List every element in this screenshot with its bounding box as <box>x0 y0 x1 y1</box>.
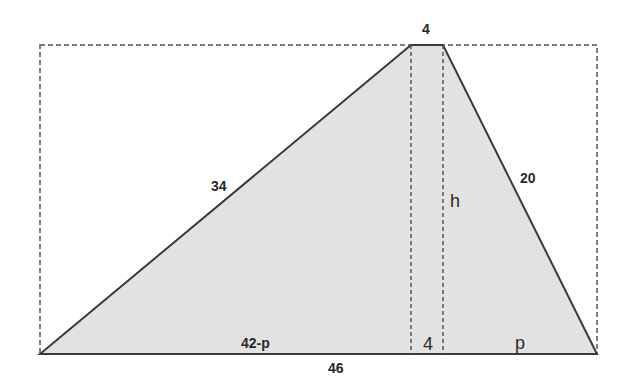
diagram-canvas <box>0 0 627 392</box>
trapezoid-shape <box>40 45 597 354</box>
right-side-label: 20 <box>520 170 536 186</box>
height-label: h <box>450 191 460 212</box>
top-base-label: 4 <box>422 21 430 37</box>
bottom-base-label: 46 <box>328 360 344 376</box>
bottom-middle-segment-label: 4 <box>423 334 433 355</box>
trapezoid-diagram: 4 34 20 h 42-p 4 p 46 <box>0 0 627 392</box>
bottom-right-segment-label: p <box>515 333 525 354</box>
left-side-label: 34 <box>211 178 227 194</box>
bottom-left-segment-label: 42-p <box>241 335 270 351</box>
